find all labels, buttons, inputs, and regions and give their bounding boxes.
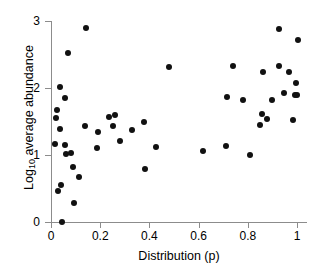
data-point — [70, 164, 76, 170]
data-point — [76, 174, 82, 180]
data-point — [293, 80, 299, 86]
data-point — [276, 63, 282, 69]
data-point — [153, 144, 159, 150]
x-tick-label: 1 — [277, 230, 317, 242]
data-point — [294, 92, 300, 98]
data-point — [62, 95, 68, 101]
data-point — [71, 200, 77, 206]
data-point — [286, 69, 292, 75]
x-tick-mark — [248, 223, 249, 228]
x-tick-mark — [100, 223, 101, 228]
data-point — [52, 141, 58, 147]
y-tick-label: 0 — [10, 216, 40, 228]
data-point — [117, 138, 123, 144]
data-point — [57, 126, 63, 132]
data-point — [257, 122, 263, 128]
data-point — [141, 119, 147, 125]
x-tick-label: 0.6 — [179, 230, 219, 242]
x-tick-mark — [51, 223, 52, 228]
data-point — [276, 26, 282, 32]
data-point — [264, 116, 270, 122]
data-point — [53, 115, 59, 121]
data-point — [240, 97, 246, 103]
data-point — [59, 219, 65, 225]
x-tick-mark — [199, 223, 200, 228]
x-tick-label: 0.4 — [129, 230, 169, 242]
data-point — [129, 127, 135, 133]
data-point — [224, 94, 230, 100]
x-tick-label: 0.8 — [228, 230, 268, 242]
data-point — [269, 97, 275, 103]
data-point — [112, 112, 118, 118]
data-point — [57, 84, 63, 90]
x-tick-mark — [149, 223, 150, 228]
data-point — [247, 152, 253, 158]
data-point — [106, 114, 112, 120]
data-point — [223, 143, 229, 149]
data-point — [58, 182, 64, 188]
x-tick-label: 0.2 — [80, 230, 120, 242]
data-point — [295, 37, 301, 43]
plot-area — [51, 21, 307, 222]
data-point — [95, 129, 101, 135]
data-point — [82, 123, 88, 129]
data-point — [142, 166, 148, 172]
data-point — [200, 148, 206, 154]
x-axis-title: Distribution (p) — [51, 249, 307, 263]
data-point — [68, 150, 74, 156]
data-point — [55, 188, 61, 194]
data-point — [54, 107, 60, 113]
data-point — [110, 123, 116, 129]
data-point — [281, 90, 287, 96]
data-point — [65, 50, 71, 56]
data-point — [83, 25, 89, 31]
y-axis-title-subscript: 10 — [27, 159, 37, 169]
data-point — [230, 63, 236, 69]
y-axis-title-base: Log — [22, 169, 36, 190]
scatter-plot-figure: 0123 00.20.40.60.81 Log10 average abunda… — [0, 0, 321, 275]
data-point — [166, 64, 172, 70]
data-point — [62, 142, 68, 148]
x-tick-mark — [297, 223, 298, 228]
data-point — [290, 117, 296, 123]
x-tick-label: 0 — [31, 230, 71, 242]
y-axis-title: Log10 average abundance — [22, 18, 37, 218]
data-point — [94, 145, 100, 151]
data-point — [260, 69, 266, 75]
x-axis-line — [51, 222, 307, 223]
y-axis-title-rest: average abundance — [22, 45, 36, 159]
